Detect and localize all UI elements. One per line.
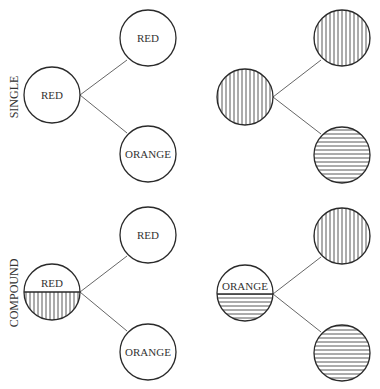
edge: [273, 97, 321, 134]
color-tree-diagram: SINGLE RED RED ORANGE: [0, 0, 380, 389]
edge: [80, 292, 127, 331]
node-child-red: RED: [120, 10, 176, 66]
svg-text:ORANGE: ORANGE: [125, 346, 171, 358]
edge: [80, 95, 127, 133]
row-label-compound: COMPOUND: [7, 258, 21, 327]
node-parent-orange-compound: ORANGE: [217, 265, 273, 321]
row-compound: COMPOUND RED RED ORANGE: [7, 207, 370, 381]
node-child-orange: ORANGE: [120, 126, 176, 182]
svg-text:RED: RED: [137, 32, 159, 44]
node-parent-vertical-hatch: [217, 69, 273, 125]
svg-text:RED: RED: [137, 229, 159, 241]
node-parent-red-compound: RED: [24, 264, 80, 320]
svg-text:ORANGE: ORANGE: [125, 148, 171, 160]
node-child-orange: ORANGE: [120, 324, 176, 380]
edge: [273, 60, 321, 97]
compound-pattern-tree: ORANGE: [217, 208, 370, 381]
edge: [80, 60, 127, 95]
single-labeled-tree: RED RED ORANGE: [24, 10, 176, 182]
node-child-horizontal-hatch: [314, 325, 370, 381]
svg-text:ORANGE: ORANGE: [222, 280, 268, 292]
compound-labeled-tree: RED RED ORANGE: [24, 207, 176, 380]
edge: [273, 257, 321, 294]
edge: [273, 294, 321, 332]
single-pattern-tree: [217, 10, 370, 183]
row-label-single: SINGLE: [7, 76, 21, 119]
edge: [80, 256, 127, 292]
node-child-vertical-hatch: [314, 208, 370, 264]
row-single: SINGLE RED RED ORANGE: [7, 10, 370, 183]
svg-text:RED: RED: [41, 277, 63, 289]
node-child-horizontal-hatch: [314, 127, 370, 183]
node-parent-red: RED: [24, 67, 80, 123]
node-child-red: RED: [120, 207, 176, 263]
svg-text:RED: RED: [41, 89, 63, 101]
node-child-vertical-hatch: [314, 10, 370, 66]
